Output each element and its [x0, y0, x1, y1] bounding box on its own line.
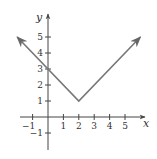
x-tick-label: 5: [122, 121, 128, 131]
x-tick-label: 4: [107, 121, 113, 131]
function-line: [17, 37, 140, 101]
plot-area: −112345 −112345 x y: [0, 0, 157, 159]
y-tick-label: 1: [37, 96, 43, 106]
x-tick-label: 3: [91, 121, 97, 131]
x-tick-label: 1: [61, 121, 67, 131]
y-tick-label: −1: [30, 128, 43, 138]
x-axis-label: x: [143, 117, 150, 130]
x-tick-label: 2: [76, 121, 82, 131]
y-tick-label: 5: [37, 32, 43, 42]
y-tick-label: 3: [37, 64, 43, 74]
y-tick-label: 2: [37, 80, 43, 90]
y-axis-label: y: [35, 11, 43, 24]
y-tick-label: 4: [37, 48, 43, 58]
absolute-value-graph: −112345 −112345 x y: [0, 0, 157, 159]
